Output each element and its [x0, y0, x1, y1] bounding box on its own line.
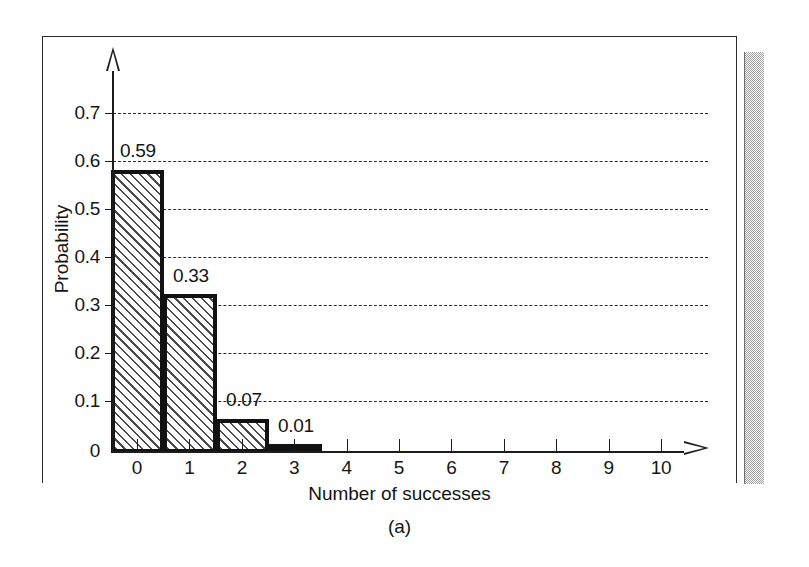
bar-0 — [111, 170, 164, 453]
y-tick-0.3 — [105, 305, 114, 306]
x-tick-label-0: 0 — [117, 457, 157, 479]
x-axis-arrow-icon — [684, 441, 709, 455]
x-tick-5 — [399, 439, 400, 452]
y-tick-0.1 — [105, 401, 114, 402]
x-tick-8 — [556, 439, 557, 452]
x-tick-9 — [609, 439, 610, 452]
plot-area: 0.59 0.33 0.07 0.01 0.7 0.6 0.5 0.4 0.3 … — [0, 0, 809, 567]
x-tick-2 — [242, 439, 243, 452]
x-tick-label-6: 6 — [431, 457, 471, 479]
gridline-0.5 — [113, 209, 708, 210]
bar-value-3: 0.01 — [278, 415, 314, 437]
figure-caption: (a) — [113, 516, 686, 538]
x-tick-label-8: 8 — [536, 457, 576, 479]
y-tick-label-0.1: 0.1 — [40, 390, 100, 412]
y-axis-arrow-icon — [106, 47, 120, 71]
bar-value-2: 0.07 — [226, 389, 262, 411]
y-tick-0.4 — [105, 257, 114, 258]
y-tick-label-0.2: 0.2 — [40, 342, 100, 364]
y-axis-title: Probability — [51, 179, 73, 319]
y-tick-label-0.6: 0.6 — [40, 150, 100, 172]
x-tick-3 — [294, 439, 295, 452]
x-tick-0 — [137, 439, 138, 452]
bar-value-0: 0.59 — [120, 140, 156, 162]
x-tick-1 — [189, 439, 190, 452]
x-tick-label-7: 7 — [484, 457, 524, 479]
x-tick-label-10: 10 — [641, 457, 681, 479]
x-tick-label-1: 1 — [169, 457, 209, 479]
x-axis-title: Number of successes — [113, 483, 686, 505]
y-tick-0.5 — [105, 209, 114, 210]
x-tick-6 — [451, 439, 452, 452]
bar-1 — [163, 294, 216, 453]
gridline-0.4 — [113, 257, 708, 258]
x-tick-label-3: 3 — [274, 457, 314, 479]
x-tick-label-9: 9 — [589, 457, 629, 479]
bar-value-1: 0.33 — [173, 265, 209, 287]
x-tick-10 — [661, 439, 662, 452]
figure-root: 0.59 0.33 0.07 0.01 0.7 0.6 0.5 0.4 0.3 … — [0, 0, 809, 567]
gridline-0.6 — [113, 161, 708, 162]
y-tick-label-0.7: 0.7 — [40, 102, 100, 124]
x-tick-label-4: 4 — [327, 457, 367, 479]
y-tick-0.2 — [105, 353, 114, 354]
x-tick-label-5: 5 — [379, 457, 419, 479]
x-tick-7 — [504, 439, 505, 452]
y-tick-0.7 — [105, 113, 114, 114]
gridline-0.7 — [113, 113, 708, 114]
y-tick-label-0: 0 — [40, 440, 100, 462]
x-tick-4 — [347, 439, 348, 452]
y-tick-0.6 — [105, 161, 114, 162]
x-tick-label-2: 2 — [222, 457, 262, 479]
y-axis-line — [112, 70, 114, 453]
